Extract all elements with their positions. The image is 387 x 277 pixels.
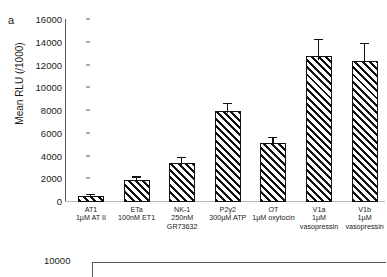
error-bar xyxy=(136,178,137,182)
bar-group xyxy=(352,14,378,202)
error-bar xyxy=(272,138,273,144)
error-bar xyxy=(318,40,319,60)
chart-panel-a: a Mean RLU (/1000) 160001400012000100008… xyxy=(0,0,387,245)
bar-eta xyxy=(124,180,150,202)
bar-group xyxy=(124,14,150,202)
error-bar-cap xyxy=(132,176,141,177)
y-tick-label: 4000 xyxy=(41,150,62,161)
bar-group xyxy=(169,14,195,202)
bar-group xyxy=(306,14,332,202)
y-tick-label: 6000 xyxy=(41,127,62,138)
x-tick-label: V1b1µMvasopressin xyxy=(334,206,387,231)
x-tick-treatment: vasopressin xyxy=(334,223,387,231)
error-bar xyxy=(364,44,365,65)
y-tick-label: 12000 xyxy=(36,59,62,70)
error-bar xyxy=(90,195,91,197)
y-axis-tick-labels: 1600014000120001000080006000400020000 xyxy=(22,14,62,202)
error-bar xyxy=(181,158,182,164)
bar-at1 xyxy=(78,196,104,202)
y-tick-label: 2000 xyxy=(41,173,62,184)
bar-group xyxy=(78,14,104,202)
bar-ot xyxy=(260,143,286,202)
y-tick-label: 10000 xyxy=(36,82,62,93)
panel-a-letter: a xyxy=(8,14,14,26)
y-tick-label: 16000 xyxy=(36,14,62,25)
x-tick-treatment: GR73632 xyxy=(151,223,213,231)
y-tick-label: 14000 xyxy=(36,36,62,47)
bar-p2y2 xyxy=(215,111,241,202)
bar-group xyxy=(215,14,241,202)
error-bar-cap xyxy=(177,157,186,158)
bar-v1b xyxy=(352,61,378,202)
y-tick-label: 0 xyxy=(57,196,62,207)
y-tick-label: 8000 xyxy=(41,105,62,116)
bar-group xyxy=(260,14,286,202)
bar-v1a xyxy=(306,56,332,202)
error-bar-cap xyxy=(223,103,232,104)
error-bar-cap xyxy=(314,39,323,40)
panel-b-y-axis-line xyxy=(92,262,93,277)
error-bar xyxy=(227,104,228,113)
plot-area xyxy=(65,14,387,202)
panel-b-y-tick-label: 10000 xyxy=(44,255,70,266)
panel-b-top-frame-line xyxy=(92,262,386,263)
error-bar-cap xyxy=(86,194,95,195)
error-bar-cap xyxy=(360,43,369,44)
bar-nk-1 xyxy=(169,163,195,202)
error-bar-cap xyxy=(268,137,277,138)
chart-panel-b: b 10000 xyxy=(0,250,387,277)
